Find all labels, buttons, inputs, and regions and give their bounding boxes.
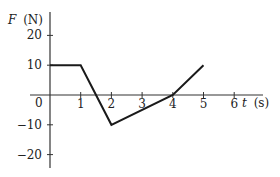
x-tick-label: 5	[200, 97, 208, 111]
x-tick-label: 4	[169, 97, 177, 111]
y-tick-label: 20	[27, 28, 42, 42]
x-tick-label: 6	[230, 97, 238, 111]
x-tick-label: 1	[77, 97, 85, 111]
force-time-chart: 123456 2010−10−20 F (N) t (s) 0	[0, 0, 280, 177]
y-tick-label: −10	[17, 118, 42, 132]
y-tick-label: 10	[27, 58, 42, 72]
y-axis-label: F (N)	[7, 13, 43, 27]
origin-label: 0	[35, 96, 43, 110]
x-axis-label: t (s)	[242, 96, 269, 110]
x-tick-label: 2	[108, 97, 116, 111]
y-tick-label: −20	[17, 148, 42, 162]
